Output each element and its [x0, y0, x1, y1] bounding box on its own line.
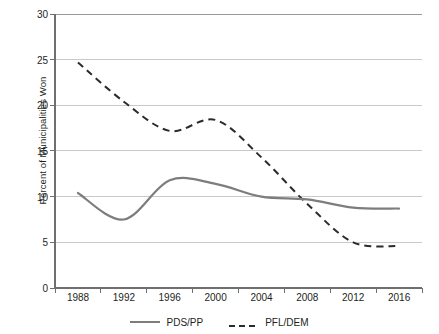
x-axis-tick-labels: 1988 1992 1996 2000 2004 2008 2012 2016	[0, 292, 439, 308]
legend-swatch-dashed-icon	[229, 317, 259, 327]
x-tick-label-2012: 2012	[342, 292, 364, 303]
x-tick-label-1996: 1996	[159, 292, 181, 303]
x-tick-label-2016: 2016	[388, 292, 410, 303]
legend-swatch-solid-icon	[130, 317, 160, 327]
series-line-pds-pp	[78, 178, 399, 220]
chart-legend: PDS/PP PFL/DEM	[0, 310, 439, 334]
x-tick-label-2000: 2000	[204, 292, 226, 303]
plot-area	[0, 0, 439, 334]
x-tick-label-2008: 2008	[296, 292, 318, 303]
x-tick-label-1992: 1992	[113, 292, 135, 303]
x-tick-label-1988: 1988	[67, 292, 89, 303]
gridlines	[55, 60, 422, 243]
legend-label-pds-pp: PDS/PP	[166, 317, 203, 328]
legend-entry-pds-pp: PDS/PP	[130, 317, 203, 328]
legend-label-pfl-dem: PFL/DEM	[265, 317, 308, 328]
y-axis-ticks	[50, 14, 55, 288]
x-tick-label-2004: 2004	[250, 292, 272, 303]
line-chart: Percent of Municipalities Won 30 25 20 1…	[0, 0, 439, 334]
legend-entry-pfl-dem: PFL/DEM	[229, 317, 308, 328]
